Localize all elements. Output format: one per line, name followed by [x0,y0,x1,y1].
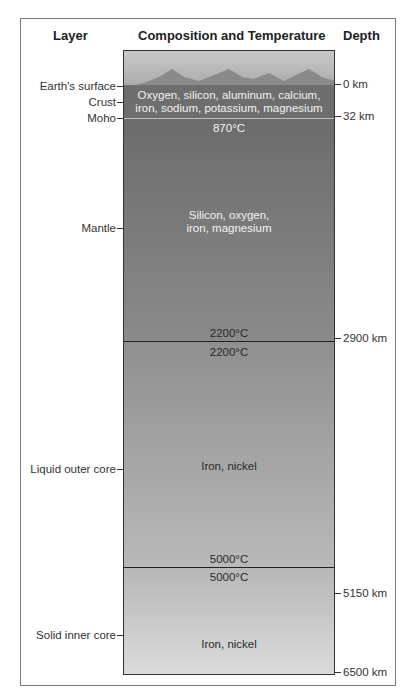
inner-core-composition: Iron, nickel [124,638,334,651]
outer-core-top-temp: 2200°C [124,346,334,359]
layer-header: Layer [53,28,88,43]
composition-header: Composition and Temperature [138,28,326,43]
mantle-composition-2: iron, magnesium [124,222,334,235]
depth-6500: 6500 km [335,666,387,678]
inner-core-top-temp: 5000°C [124,571,334,584]
label-solid-inner-core: Solid inner core [36,629,123,641]
mantle-composition-1: Silicon, oxygen, [124,209,334,222]
label-mantle: Mantle [81,222,123,234]
depth-32: 32 km [335,110,374,122]
outer-core-bottom-temp: 5000°C [124,553,334,566]
moho-temp: 870°C [124,122,334,135]
label-liquid-outer-core: Liquid outer core [30,463,123,475]
depth-header: Depth [343,28,380,43]
outer-core-composition: Iron, nickel [124,460,334,473]
label-earth-surface: Earth's surface [40,80,123,92]
mantle-bottom-temp: 2200°C [124,327,334,340]
depth-5150: 5150 km [335,587,387,599]
depth-0: 0 km [335,78,368,90]
crust-composition-1: Oxygen, silicon, aluminum, calcium, [124,89,334,102]
earth-layers-column: Oxygen, silicon, aluminum, calcium, iron… [123,50,335,675]
depth-2900: 2900 km [335,332,387,344]
label-moho: Moho [87,112,123,124]
crust-composition-2: iron, sodium, potassium, magnesium [124,102,334,115]
label-crust: Crust [89,96,123,108]
outer-core-layer [124,341,334,568]
